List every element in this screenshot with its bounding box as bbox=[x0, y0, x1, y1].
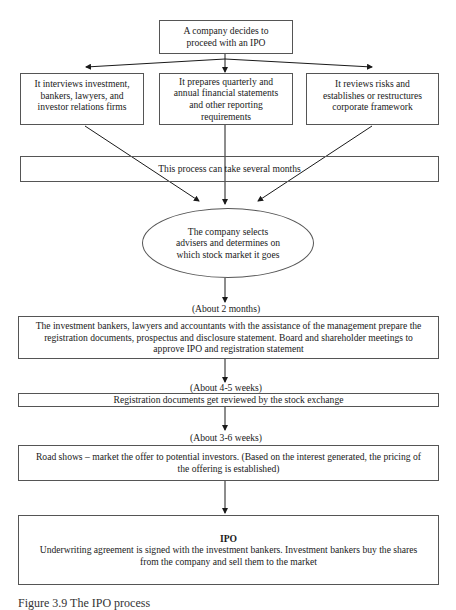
start-text-line: A company decides to bbox=[184, 25, 269, 37]
ipo-title: IPO bbox=[40, 533, 418, 545]
branch-box-interviews: It interviews investment, bankers, lawye… bbox=[20, 73, 144, 125]
time-label-step-3: (About 3-6 weeks) bbox=[0, 432, 452, 444]
branch-box-prepares: It prepares quarterly and annual financi… bbox=[159, 73, 293, 125]
branch-text-line: establishes or restructures bbox=[323, 90, 422, 102]
step-text-line: approve IPO and registration statement bbox=[36, 343, 422, 355]
step-box-registration-prep: The investment bankers, lawyers and acco… bbox=[18, 316, 439, 359]
step-text-line: registration documents, prospectus and d… bbox=[36, 332, 422, 344]
decision-text-line: which stock market it goes bbox=[176, 249, 280, 261]
branch-text-line: annual financial statements bbox=[174, 87, 278, 99]
final-ipo-box: IPO Underwriting agreement is signed wit… bbox=[18, 515, 439, 585]
branch-text-line: It prepares quarterly and bbox=[174, 76, 278, 88]
branch-box-reviews: It reviews risks and establishes or rest… bbox=[306, 73, 439, 125]
branch-text-line: and other reporting bbox=[174, 99, 278, 111]
decision-ellipse: The company selects advisers and determi… bbox=[142, 208, 314, 278]
decision-text-line: The company selects bbox=[176, 226, 280, 238]
step-text-line: Registration documents get reviewed by t… bbox=[114, 394, 344, 406]
figure-caption: Figure 3.9 The IPO process bbox=[18, 596, 150, 610]
branch-text-line: investor relations firms bbox=[34, 101, 129, 113]
step-text-line: the offering is established) bbox=[36, 463, 421, 475]
branch-text-line: requirements bbox=[174, 111, 278, 123]
step-box-exchange-review: Registration documents get reviewed by t… bbox=[18, 393, 439, 407]
final-text-line: Underwriting agreement is signed with th… bbox=[40, 544, 418, 556]
branch-text-line: corporate framework bbox=[323, 101, 422, 113]
step-text-line: The investment bankers, lawyers and acco… bbox=[36, 320, 422, 332]
start-box: A company decides to proceed with an IPO bbox=[159, 20, 293, 54]
final-text-line: from the company and sell them to the ma… bbox=[40, 556, 418, 568]
time-label-step-1: (About 2 months) bbox=[0, 303, 452, 315]
start-text-line: proceed with an IPO bbox=[184, 37, 269, 49]
branch-text-line: bankers, lawyers, and bbox=[34, 90, 129, 102]
duration-note-text: This process can take several months bbox=[158, 163, 301, 175]
branch-text-line: It interviews investment, bbox=[34, 78, 129, 90]
branch-text-line: It reviews risks and bbox=[323, 78, 422, 90]
decision-text-line: advisers and determines on bbox=[176, 237, 280, 249]
step-box-road-shows: Road shows – market the offer to potenti… bbox=[18, 445, 439, 481]
step-text-line: Road shows – market the offer to potenti… bbox=[36, 451, 421, 463]
duration-note-box: This process can take several months bbox=[20, 156, 439, 182]
